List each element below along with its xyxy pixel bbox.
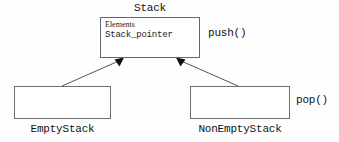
subclass-box-emptystack[interactable]	[14, 86, 111, 119]
generalization-arrow-emptystack	[62, 58, 124, 87]
superclass-title: Stack	[100, 2, 200, 15]
attribute-stack-pointer: Stack_pointer	[105, 30, 197, 41]
subclass-box-nonemptystack[interactable]	[190, 86, 290, 119]
operation-label-pop: pop()	[296, 94, 328, 107]
subclass-label-nonemptystack: NonEmptyStack	[184, 123, 296, 136]
uml-diagram-canvas: Stack Elements Stack_pointer push() pop(…	[0, 0, 339, 142]
operation-label-push: push()	[208, 27, 246, 40]
generalization-arrow-nonemptystack	[176, 58, 238, 87]
superclass-box-stack[interactable]: Elements Stack_pointer	[100, 17, 200, 58]
attribute-elements: Elements	[105, 20, 197, 30]
attribute-list: Elements Stack_pointer	[105, 20, 197, 41]
subclass-label-emptystack: EmptyStack	[14, 123, 111, 136]
